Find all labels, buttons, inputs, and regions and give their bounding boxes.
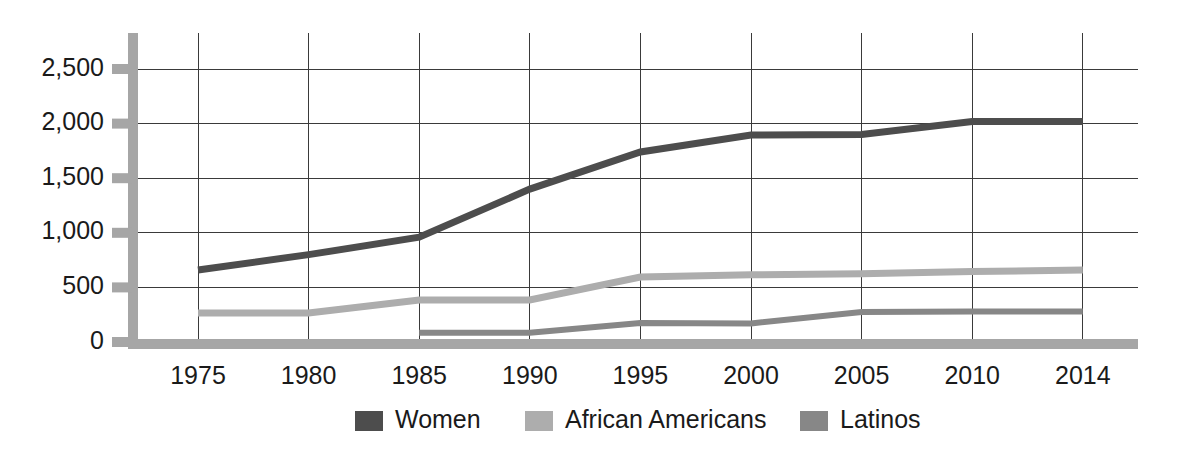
y-axis-tick-label: 0: [90, 326, 104, 354]
y-axis-tick-label: 2,000: [41, 107, 104, 135]
chart-legend: WomenAfrican AmericansLatinos: [355, 405, 921, 433]
y-axis-tick-label: 500: [62, 271, 104, 299]
x-axis-tick-label: 1980: [281, 361, 337, 389]
x-axis-tick-label: 1990: [502, 361, 558, 389]
chart-canvas: 2,5002,0001,5001,0005000 197519801985199…: [0, 0, 1178, 469]
y-axis-tick: [112, 228, 132, 238]
x-axis-tick-label: 2000: [723, 361, 779, 389]
x-axis-tick-labels: 197519801985199019952000200520102014: [170, 361, 1111, 389]
x-axis-tick-label: 2010: [944, 361, 1000, 389]
line-chart: 2,5002,0001,5001,0005000 197519801985199…: [0, 0, 1178, 469]
y-axis-tick-label: 1,500: [41, 162, 104, 190]
y-axis-tick: [112, 173, 132, 183]
x-axis-tick-label: 2014: [1055, 361, 1111, 389]
legend-label: Women: [395, 405, 481, 433]
y-axis-tick: [112, 337, 132, 347]
vertical-gridlines: [198, 33, 1083, 342]
legend-label: African Americans: [565, 405, 766, 433]
legend-swatch: [800, 411, 828, 431]
y-axis-tick: [112, 119, 132, 129]
y-axis-tick: [112, 64, 132, 74]
x-axis-tick-label: 1985: [391, 361, 447, 389]
legend-swatch: [355, 411, 383, 431]
y-axis-tick-label: 2,500: [41, 53, 104, 81]
legend-swatch: [525, 411, 553, 431]
x-axis-tick-label: 1975: [170, 361, 226, 389]
y-axis-tick-labels: 2,5002,0001,5001,0005000: [41, 53, 104, 354]
y-axis-tick-label: 1,000: [41, 216, 104, 244]
legend-label: Latinos: [840, 405, 921, 433]
y-axis-tick: [112, 282, 132, 292]
x-axis-tick-label: 1995: [613, 361, 669, 389]
x-axis-tick-label: 2005: [834, 361, 890, 389]
x-axis-bar: [128, 339, 1138, 349]
y-axis-bar: [128, 33, 138, 345]
